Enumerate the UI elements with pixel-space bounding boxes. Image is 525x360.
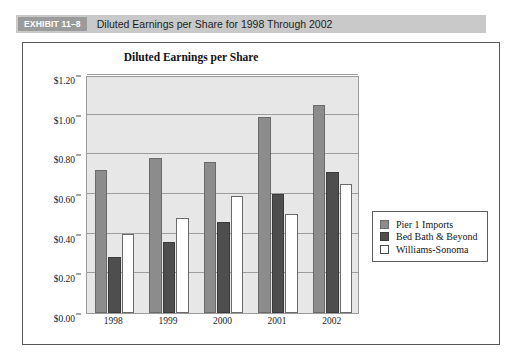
- y-axis-tick: [76, 274, 81, 275]
- y-axis: $0.00$0.20$0.40$0.60$0.80$1.00$1.20: [23, 76, 81, 314]
- legend-label: Bed Bath & Beyond: [396, 231, 477, 242]
- x-axis-tick-label: 2001: [268, 316, 287, 326]
- bar: [204, 162, 217, 313]
- y-axis-tick: [76, 195, 81, 196]
- bar-group-2002: [305, 77, 360, 313]
- bar: [108, 257, 121, 313]
- y-axis-tick: [76, 314, 81, 315]
- bars-layer: [87, 77, 358, 313]
- bar: [285, 214, 298, 313]
- legend-swatch-icon: [380, 220, 389, 229]
- bar: [340, 184, 353, 313]
- bar-group-1998: [87, 77, 142, 313]
- y-axis-tick: [76, 234, 81, 235]
- legend-swatch-icon: [380, 245, 389, 254]
- plot-area: [86, 76, 359, 314]
- bar: [176, 218, 189, 313]
- bar: [163, 242, 176, 313]
- y-axis-tick: [76, 115, 81, 116]
- bar-group-2001: [251, 77, 306, 313]
- x-axis: 19981999200020012002: [86, 316, 359, 332]
- exhibit-header: EXHIBIT 11–8 Diluted Earnings per Share …: [16, 15, 486, 33]
- bar: [217, 222, 230, 313]
- legend-item: Pier 1 Imports: [380, 219, 481, 230]
- legend-label: Williams-Sonoma: [396, 244, 468, 255]
- chart-legend: Pier 1 ImportsBed Bath & BeyondWilliams-…: [372, 211, 488, 262]
- bar: [231, 196, 244, 313]
- legend-label: Pier 1 Imports: [396, 219, 453, 230]
- bar: [149, 158, 162, 313]
- chart-frame: Diluted Earnings per Share $0.00$0.20$0.…: [22, 42, 500, 345]
- bar: [326, 172, 339, 313]
- y-axis-tick: [76, 76, 81, 77]
- exhibit-number-badge: EXHIBIT 11–8: [18, 17, 87, 32]
- exhibit-title: Diluted Earnings per Share for 1998 Thro…: [97, 18, 333, 30]
- chart-title: Diluted Earnings per Share: [23, 51, 359, 63]
- y-axis-tick: [76, 155, 81, 156]
- bar-group-2000: [196, 77, 251, 313]
- bar: [258, 117, 271, 313]
- bar: [95, 170, 108, 313]
- bar: [313, 105, 326, 313]
- legend-item: Bed Bath & Beyond: [380, 231, 481, 242]
- gridline: [87, 74, 358, 75]
- x-axis-tick-label: 2000: [213, 316, 232, 326]
- x-axis-tick-label: 2002: [322, 316, 341, 326]
- legend-item: Williams-Sonoma: [380, 244, 481, 255]
- x-axis-tick-label: 1998: [104, 316, 123, 326]
- bar: [272, 194, 285, 313]
- bar: [122, 234, 135, 313]
- bar-group-1999: [142, 77, 197, 313]
- x-axis-tick-label: 1999: [158, 316, 177, 326]
- legend-swatch-icon: [380, 232, 389, 241]
